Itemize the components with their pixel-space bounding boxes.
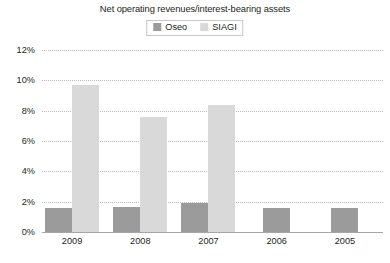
y-axis-tick-label: 2% — [0, 197, 35, 207]
y-axis-tick-label: 8% — [0, 106, 35, 116]
x-axis-tick-label: 2009 — [62, 236, 82, 246]
legend-entry-oseo: Oseo — [153, 23, 187, 32]
bar-oseo-2006 — [263, 208, 290, 232]
legend-swatch-siagi — [200, 23, 208, 31]
bar-siagi-2009 — [72, 85, 99, 232]
bar-group — [178, 50, 246, 232]
bar-siagi-2007 — [208, 105, 235, 232]
bar-group — [247, 50, 315, 232]
y-axis-tick-label: 12% — [0, 45, 35, 55]
bar-oseo-2007 — [181, 203, 208, 232]
y-axis-tick-label: 6% — [0, 136, 35, 146]
chart-container: Net operating revenues/interest-bearing … — [0, 0, 390, 263]
bar-oseo-2008 — [113, 207, 140, 232]
y-axis-tick-label: 10% — [0, 75, 35, 85]
x-axis-tick-label: 2008 — [130, 236, 150, 246]
legend-entry-siagi: SIAGI — [200, 23, 237, 32]
x-axis-tick-label: 2005 — [335, 236, 355, 246]
x-axis-tick-label: 2007 — [198, 236, 218, 246]
bar-oseo-2009 — [45, 208, 72, 232]
bar-group — [42, 50, 110, 232]
plot-area: 0%2%4%6%8%10%12% 20092008200720062005 — [42, 50, 383, 232]
bar-oseo-2005 — [331, 208, 358, 232]
y-axis-tick-label: 4% — [0, 166, 35, 176]
legend-label-oseo: Oseo — [165, 23, 187, 32]
y-axis-tick-label: 0% — [0, 227, 35, 237]
bars-layer — [42, 50, 383, 232]
chart-legend: Oseo SIAGI — [146, 20, 243, 36]
legend-label-siagi: SIAGI — [212, 23, 237, 32]
bar-group — [110, 50, 178, 232]
bar-group — [315, 50, 383, 232]
bar-siagi-2008 — [140, 117, 167, 232]
gridline — [42, 232, 383, 233]
x-axis-tick-label: 2006 — [266, 236, 286, 246]
chart-title: Net operating revenues/interest-bearing … — [0, 3, 390, 14]
legend-swatch-oseo — [153, 23, 161, 31]
